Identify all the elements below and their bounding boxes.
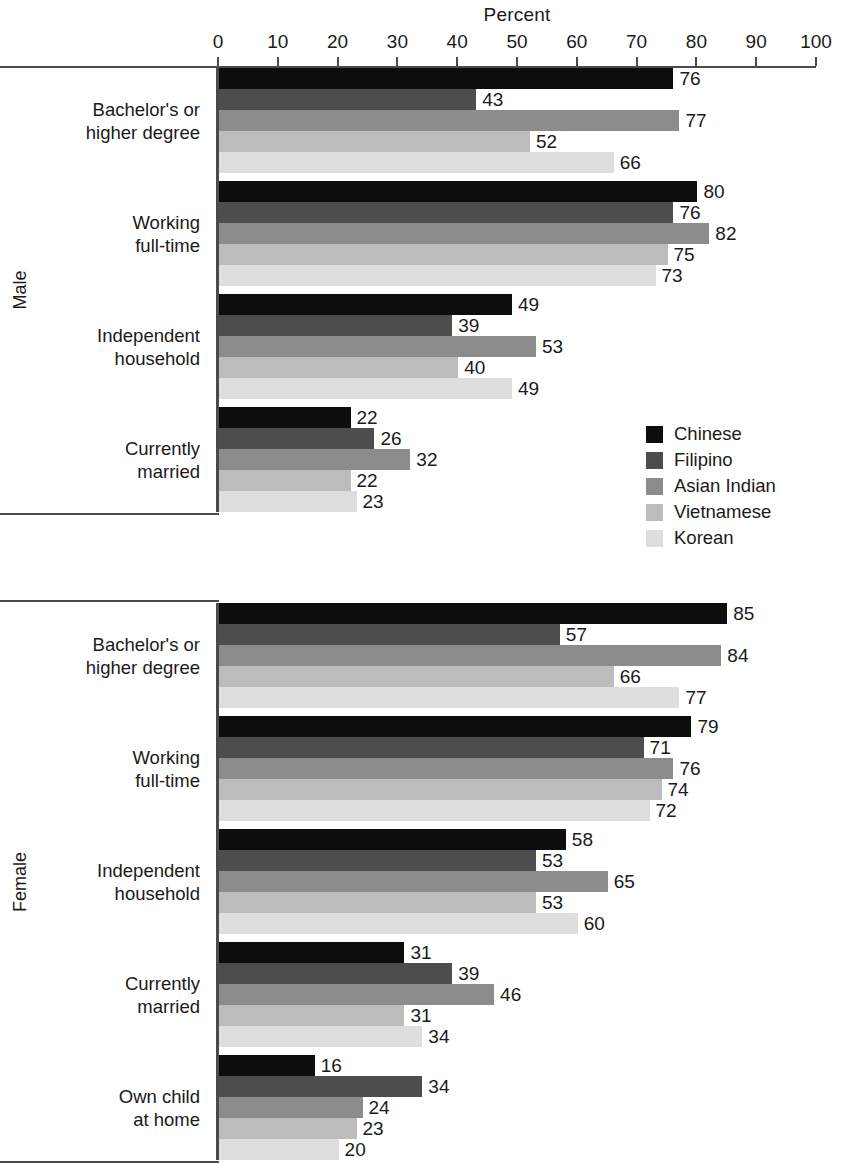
bar-filipino[interactable]: [219, 963, 452, 984]
panel-label-female: Female: [10, 851, 31, 911]
legend-label: Vietnamese: [674, 501, 771, 523]
x-tick-mark: [576, 57, 578, 66]
bar-row: 53: [219, 850, 846, 871]
bar-filipino[interactable]: [219, 202, 673, 223]
bar-korean[interactable]: [219, 265, 656, 286]
bar-filipino[interactable]: [219, 737, 644, 758]
bar-row: 76: [219, 758, 846, 779]
group-label-line: Independent: [0, 324, 200, 347]
bar-asian-indian[interactable]: [219, 110, 679, 131]
x-tick-mark: [337, 57, 339, 66]
bar-korean[interactable]: [219, 152, 614, 173]
bar-chinese[interactable]: [219, 716, 691, 737]
bar-korean[interactable]: [219, 491, 357, 512]
bar-chinese[interactable]: [219, 829, 566, 850]
bar-asian-indian[interactable]: [219, 871, 608, 892]
axis-title: Percent: [0, 4, 846, 26]
bar-row: 39: [219, 315, 846, 336]
bar-row: 34: [219, 1026, 846, 1047]
group-label-line: Bachelor's or: [0, 98, 200, 121]
legend-swatch-icon: [646, 426, 663, 443]
bar-group: Own childat home1634242320: [0, 1055, 846, 1160]
bar-vietnamese[interactable]: [219, 1118, 357, 1139]
bar-korean[interactable]: [219, 1139, 339, 1160]
group-label-line: higher degree: [0, 656, 200, 679]
bar-vietnamese[interactable]: [219, 666, 614, 687]
bar-korean[interactable]: [219, 378, 512, 399]
bar-asian-indian[interactable]: [219, 223, 709, 244]
bar-filipino[interactable]: [219, 624, 560, 645]
bar-value-label: 76: [679, 68, 700, 90]
bar-value-label: 76: [679, 758, 700, 780]
bar-vietnamese[interactable]: [219, 470, 351, 491]
bar-vietnamese[interactable]: [219, 779, 662, 800]
bar-row: 66: [219, 666, 846, 687]
x-tick-label: 50: [506, 31, 527, 53]
bar-group: Workingfull-time7971767472: [0, 716, 846, 821]
bar-group: Independenthousehold4939534049: [0, 294, 846, 399]
bar-row: 16: [219, 1055, 846, 1076]
x-tick-mark: [516, 57, 518, 66]
bar-value-label: 76: [679, 202, 700, 224]
bar-asian-indian[interactable]: [219, 1097, 363, 1118]
bar-filipino[interactable]: [219, 428, 374, 449]
bar-korean[interactable]: [219, 800, 650, 821]
bar-row: 80: [219, 181, 846, 202]
panel-label-male: Male: [10, 270, 31, 309]
x-tick-label: 60: [566, 31, 587, 53]
bar-value-label: 40: [464, 357, 485, 379]
bar-korean[interactable]: [219, 1026, 422, 1047]
bar-group: Bachelor's orhigher degree8557846677: [0, 603, 846, 708]
legend-swatch-icon: [646, 478, 663, 495]
bar-row: 75: [219, 244, 846, 265]
x-tick-label: 70: [626, 31, 647, 53]
bar-chinese[interactable]: [219, 68, 673, 89]
group-label-line: full-time: [0, 769, 200, 792]
bar-vietnamese[interactable]: [219, 357, 458, 378]
x-axis-tick-labels: 0102030405060708090100: [0, 31, 846, 55]
bar-asian-indian[interactable]: [219, 449, 410, 470]
legend-item[interactable]: Asian Indian: [646, 473, 836, 499]
bar-asian-indian[interactable]: [219, 758, 673, 779]
x-tick-mark: [456, 57, 458, 66]
bar-filipino[interactable]: [219, 1076, 422, 1097]
bar-chinese[interactable]: [219, 407, 351, 428]
bar-asian-indian[interactable]: [219, 645, 721, 666]
bar-chinese[interactable]: [219, 942, 404, 963]
bar-chinese[interactable]: [219, 1055, 315, 1076]
legend-item[interactable]: Filipino: [646, 447, 836, 473]
bar-row: 57: [219, 624, 846, 645]
group-label: Workingfull-time: [0, 211, 200, 257]
bar-row: 53: [219, 336, 846, 357]
bar-value-label: 74: [668, 779, 689, 801]
bar-row: 46: [219, 984, 846, 1005]
legend-item[interactable]: Chinese: [646, 421, 836, 447]
legend-item[interactable]: Vietnamese: [646, 499, 836, 525]
legend-swatch-icon: [646, 452, 663, 469]
bar-vietnamese[interactable]: [219, 131, 530, 152]
bar-korean[interactable]: [219, 913, 578, 934]
bar-chinese[interactable]: [219, 294, 512, 315]
group-label: Independenthousehold: [0, 324, 200, 370]
bar-filipino[interactable]: [219, 315, 452, 336]
bar-value-label: 34: [428, 1076, 449, 1098]
bar-group: Independenthousehold5853655360: [0, 829, 846, 934]
bar-value-label: 84: [727, 645, 748, 667]
group-label-line: married: [0, 995, 200, 1018]
bar-filipino[interactable]: [219, 89, 476, 110]
bar-chinese[interactable]: [219, 181, 697, 202]
bar-asian-indian[interactable]: [219, 336, 536, 357]
bar-asian-indian[interactable]: [219, 984, 494, 1005]
bar-korean[interactable]: [219, 687, 679, 708]
bar-vietnamese[interactable]: [219, 892, 536, 913]
bar-value-label: 39: [458, 315, 479, 337]
bar-vietnamese[interactable]: [219, 1005, 404, 1026]
bar-vietnamese[interactable]: [219, 244, 668, 265]
bar-row: 31: [219, 1005, 846, 1026]
legend-item[interactable]: Korean: [646, 525, 836, 551]
bar-value-label: 77: [685, 687, 706, 709]
bar-chinese[interactable]: [219, 603, 727, 624]
bar-filipino[interactable]: [219, 850, 536, 871]
bar-value-label: 72: [656, 800, 677, 822]
